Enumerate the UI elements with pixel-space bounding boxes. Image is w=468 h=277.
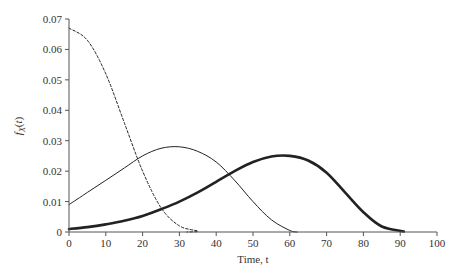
x-tick-label: 80 [358, 237, 370, 249]
chart: 0102030405060708090100 00.010.020.030.04… [0, 0, 468, 277]
y-tick-label: 0 [57, 226, 63, 238]
axes [69, 19, 437, 232]
y-tick-label: 0.03 [43, 135, 63, 147]
y-tick-label: 0.06 [43, 43, 63, 55]
y-tick-label: 0.05 [43, 74, 63, 86]
x-ticks: 0102030405060708090100 [66, 232, 446, 249]
y-tick-label: 0.04 [43, 104, 63, 116]
y-axis-title: fX(t) [12, 116, 27, 135]
y-tick-label: 0.07 [43, 13, 63, 25]
x-tick-label: 60 [284, 237, 296, 249]
plot-lines [69, 28, 404, 232]
y-tick-label: 0.02 [43, 165, 62, 177]
x-tick-label: 0 [66, 237, 72, 249]
svg-text:fX(t): fX(t) [12, 116, 27, 135]
x-tick-label: 40 [211, 237, 223, 249]
x-tick-label: 70 [321, 237, 333, 249]
x-tick-label: 30 [174, 237, 186, 249]
x-axis-title: Time, t [237, 253, 268, 265]
x-tick-label: 50 [248, 237, 260, 249]
x-tick-label: 20 [137, 237, 149, 249]
x-tick-label: 90 [395, 237, 407, 249]
series-line-thick [69, 156, 404, 232]
x-tick-label: 100 [429, 237, 446, 249]
y-tick-label: 0.01 [43, 196, 62, 208]
y-ticks: 00.010.020.030.040.050.060.07 [43, 13, 69, 238]
x-tick-label: 10 [100, 237, 112, 249]
